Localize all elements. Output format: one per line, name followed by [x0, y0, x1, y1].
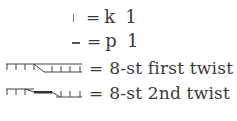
- first-twist-cable-icon: [4, 61, 84, 75]
- purl-stitch-icon: [71, 30, 81, 52]
- equals-sign: =: [89, 82, 103, 104]
- equals-sign: =: [87, 30, 101, 52]
- equals-sign: =: [86, 6, 100, 28]
- legend-label-knit: k 1: [104, 6, 137, 28]
- legend-row-purl: = p 1: [71, 30, 139, 52]
- legend-row-first-twist: = 8-st first twist: [4, 57, 233, 79]
- equals-sign: =: [89, 57, 103, 79]
- second-twist-cable-icon: [4, 86, 84, 100]
- legend-row-knit: = k 1: [70, 6, 137, 28]
- legend-label-first-twist: 8-st first twist: [109, 57, 233, 79]
- legend-row-second-twist: = 8-st 2nd twist: [4, 82, 230, 104]
- knit-stitch-icon: [70, 6, 78, 28]
- legend-label-purl: p 1: [105, 30, 138, 52]
- legend-label-second-twist: 8-st 2nd twist: [109, 82, 230, 104]
